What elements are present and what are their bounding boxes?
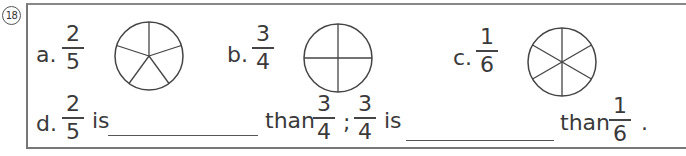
pie-fifths-icon	[113, 20, 185, 92]
denominator: 6	[480, 53, 494, 77]
pie-sixths-icon	[526, 26, 598, 98]
word-is-1: is	[92, 108, 110, 133]
period: .	[641, 110, 648, 135]
word-is-2: is	[384, 108, 402, 133]
item-a-letter: a.	[36, 42, 56, 67]
sentence-fraction-1: 2 5	[62, 92, 84, 144]
denominator: 5	[66, 120, 80, 144]
pie-quarters-icon	[302, 22, 374, 94]
word-than-2: than	[560, 110, 610, 135]
sentence-fraction-3: 3 4	[354, 92, 376, 144]
item-b-letter: b.	[227, 42, 248, 67]
numerator: 3	[256, 22, 270, 46]
denominator: 5	[66, 50, 80, 74]
answer-blank-2[interactable]	[406, 140, 554, 141]
numerator: 3	[358, 92, 372, 116]
denominator: 4	[317, 120, 331, 144]
numerator: 3	[317, 92, 331, 116]
item-a-fraction: 2 5	[62, 22, 84, 74]
numerator: 1	[613, 94, 627, 118]
question-number: 18	[2, 6, 21, 25]
denominator: 6	[613, 122, 627, 146]
numerator: 1	[480, 25, 494, 49]
item-c-fraction: 1 6	[476, 25, 498, 77]
item-b-fraction: 3 4	[252, 22, 274, 74]
numerator: 2	[66, 22, 80, 46]
sentence-fraction-2: 3 4	[313, 92, 335, 144]
answer-blank-1[interactable]	[108, 135, 258, 136]
item-c-letter: c.	[453, 45, 472, 70]
word-than-1: than	[265, 108, 315, 133]
numerator: 2	[66, 92, 80, 116]
sentence-fraction-4: 1 6	[609, 94, 631, 146]
separator: ;	[343, 110, 350, 135]
denominator: 4	[358, 120, 372, 144]
denominator: 4	[256, 50, 270, 74]
item-d-letter: d.	[36, 111, 57, 136]
